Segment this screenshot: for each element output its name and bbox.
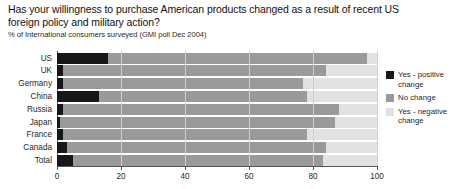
bar-segment-none	[63, 104, 338, 115]
bar-segment-pos	[57, 53, 108, 64]
tick-label-60: 60	[244, 172, 253, 182]
category-label-us: US	[41, 53, 52, 64]
gridline	[377, 51, 378, 166]
bar-segment-neg	[367, 53, 377, 64]
chart-subtitle: % of International consumers surveyed (G…	[8, 30, 338, 39]
bar-segment-none	[60, 117, 335, 128]
bar-row: Japan	[57, 117, 377, 128]
bar-segment-pos	[57, 91, 99, 102]
gridline	[121, 51, 122, 166]
tick-label-20: 20	[116, 172, 125, 182]
category-label-uk: UK	[41, 65, 52, 76]
tick-label-100: 100	[370, 172, 384, 182]
bar-segment-neg	[326, 142, 377, 153]
bar-segment-neg	[303, 78, 377, 89]
bar-row: Germany	[57, 78, 377, 89]
category-label-total: Total	[35, 155, 52, 166]
tick-mark	[121, 166, 122, 170]
bar-row: Canada	[57, 142, 377, 153]
tick-mark	[185, 166, 186, 170]
bar-segment-none	[63, 65, 325, 76]
bar-segment-neg	[307, 129, 377, 140]
bar-row: China	[57, 91, 377, 102]
bar-segment-neg	[339, 104, 377, 115]
tick-label-40: 40	[180, 172, 189, 182]
bar-row: Russia	[57, 104, 377, 115]
gridline	[313, 51, 314, 166]
bar-segment-pos	[57, 142, 67, 153]
bar-row: UK	[57, 65, 377, 76]
legend-label-positive: Yes - positive change	[398, 70, 444, 89]
bar-segment-none	[73, 155, 323, 166]
bar-segment-neg	[323, 155, 377, 166]
legend-label-negative: Yes - negative change	[398, 107, 447, 126]
tick-mark	[313, 166, 314, 170]
category-label-japan: Japan	[30, 117, 52, 128]
tick-mark	[249, 166, 250, 170]
category-label-china: China	[31, 91, 52, 102]
chart-title: Has your willingness to purchase America…	[8, 3, 408, 28]
tick-mark	[377, 166, 378, 170]
bar-segment-neg	[307, 91, 377, 102]
bar-segment-none	[63, 78, 303, 89]
category-label-germany: Germany	[18, 78, 52, 89]
gridline	[185, 51, 186, 166]
category-label-canada: Canada	[23, 142, 52, 153]
tick-label-0: 0	[55, 172, 60, 182]
bar-segment-neg	[335, 117, 377, 128]
bar-segment-none	[108, 53, 367, 64]
chart-container: Has your willingness to purchase America…	[0, 0, 472, 189]
legend-swatch-negative	[386, 108, 394, 116]
legend-swatch-positive	[386, 71, 394, 79]
bar-segment-pos	[57, 155, 73, 166]
category-label-france: France	[27, 129, 52, 140]
legend-item-positive[interactable]: Yes - positive change	[386, 70, 472, 89]
legend-item-no-change[interactable]: No change	[386, 93, 472, 103]
gridline	[249, 51, 250, 166]
x-axis-line	[57, 166, 378, 167]
chart-legend: Yes - positive changeNo changeYes - nega…	[386, 70, 472, 130]
category-label-russia: Russia	[27, 104, 52, 115]
bar-row: Total	[57, 155, 377, 166]
plot-area: USUKGermanyChinaRussiaJapanFranceCanadaT…	[57, 51, 377, 166]
tick-label-80: 80	[308, 172, 317, 182]
tick-mark	[57, 166, 58, 170]
legend-label-no-change: No change	[398, 93, 436, 103]
legend-item-negative[interactable]: Yes - negative change	[386, 107, 472, 126]
bar-row: France	[57, 129, 377, 140]
bar-segment-none	[99, 91, 307, 102]
bar-segment-none	[67, 142, 326, 153]
bar-row: US	[57, 53, 377, 64]
bar-segment-neg	[326, 65, 377, 76]
legend-swatch-no-change	[386, 94, 394, 102]
